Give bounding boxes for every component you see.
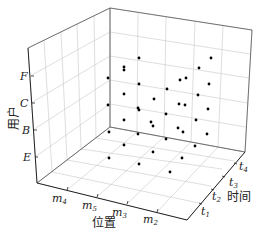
y-tick-t3: t3 — [229, 176, 238, 190]
data-point — [123, 119, 126, 122]
x-tick-m4: m4 — [52, 192, 67, 206]
data-point — [181, 157, 184, 160]
z-axis-label: 用户 — [6, 106, 21, 130]
data-point — [153, 98, 156, 101]
data-point — [166, 88, 169, 91]
data-point — [150, 121, 153, 124]
y-tick-t2: t2 — [212, 190, 221, 204]
data-point — [107, 77, 110, 80]
data-point — [152, 125, 155, 128]
data-point — [195, 119, 198, 122]
data-point — [152, 151, 155, 154]
data-point — [179, 79, 182, 82]
data-point — [198, 67, 201, 70]
data-point — [182, 131, 185, 134]
data-point — [206, 133, 209, 136]
data-point — [165, 138, 168, 141]
x-tick-m2: m2 — [143, 213, 158, 227]
data-point — [108, 131, 111, 134]
floor-grid — [37, 127, 245, 220]
data-point — [123, 66, 126, 69]
left-wall-grid — [28, 8, 110, 183]
y-tick-t1: t1 — [201, 205, 210, 219]
y-axis-label: 时间 — [227, 190, 251, 204]
data-point — [137, 133, 140, 136]
data-point — [207, 108, 210, 111]
data-points — [107, 57, 213, 174]
data-point — [138, 83, 141, 86]
data-point — [208, 83, 211, 86]
data-point — [210, 57, 213, 60]
data-point — [177, 127, 180, 130]
z-tick-B: B — [21, 124, 30, 137]
data-point — [123, 144, 126, 147]
data-point — [169, 171, 172, 174]
scatter-3d-chart: F C B E 用户 m4 m5 m3 m2 位置 t1 t2 t3 t4 时间 — [0, 0, 258, 233]
y-tick-t4: t4 — [239, 160, 248, 174]
data-point — [138, 109, 141, 112]
data-point — [197, 94, 200, 97]
data-point — [138, 57, 141, 60]
data-point — [194, 145, 197, 148]
z-tick-E: E — [22, 151, 31, 164]
box-edges — [28, 8, 252, 183]
data-point — [107, 104, 110, 107]
data-point — [178, 103, 181, 106]
z-tick-F: F — [19, 70, 28, 83]
data-point — [108, 157, 111, 160]
data-point — [123, 93, 126, 96]
data-point — [165, 113, 168, 116]
data-point — [123, 69, 126, 72]
data-point — [138, 163, 141, 166]
data-point — [185, 77, 188, 80]
x-axis-label: 位置 — [92, 215, 116, 230]
x-tick-m5: m5 — [82, 199, 97, 213]
data-point — [184, 104, 187, 107]
z-tick-C: C — [20, 97, 29, 110]
